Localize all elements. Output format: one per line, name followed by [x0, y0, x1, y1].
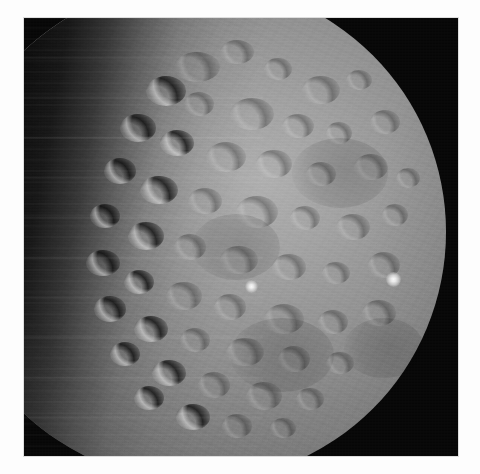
planet-disk-container [24, 18, 458, 456]
limb-highlight [24, 18, 446, 456]
planet-disk [24, 18, 446, 456]
page-root [0, 0, 480, 474]
planetary-photograph [24, 18, 458, 456]
